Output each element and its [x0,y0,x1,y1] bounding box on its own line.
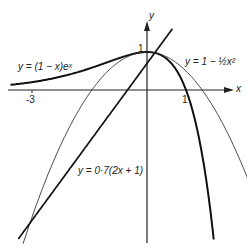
tick-label-x-1: 1 [182,95,188,105]
function-graph [0,0,247,248]
y-axis-arrow-icon [144,21,150,31]
tick-label-x-neg3: -3 [26,95,35,105]
y-axis-label: y [149,11,154,21]
x-axis-label: x [236,84,241,94]
label-curve-exp: y = (1 − x)eˣ [18,62,72,72]
tick-label-y-1: 1 [138,44,144,54]
curve-exp [11,52,214,240]
label-line: y = 0·7(2x + 1) [78,166,143,176]
x-axis-arrow-icon [224,87,234,93]
label-curve-parabola: y = 1 − ½x² [185,57,235,67]
